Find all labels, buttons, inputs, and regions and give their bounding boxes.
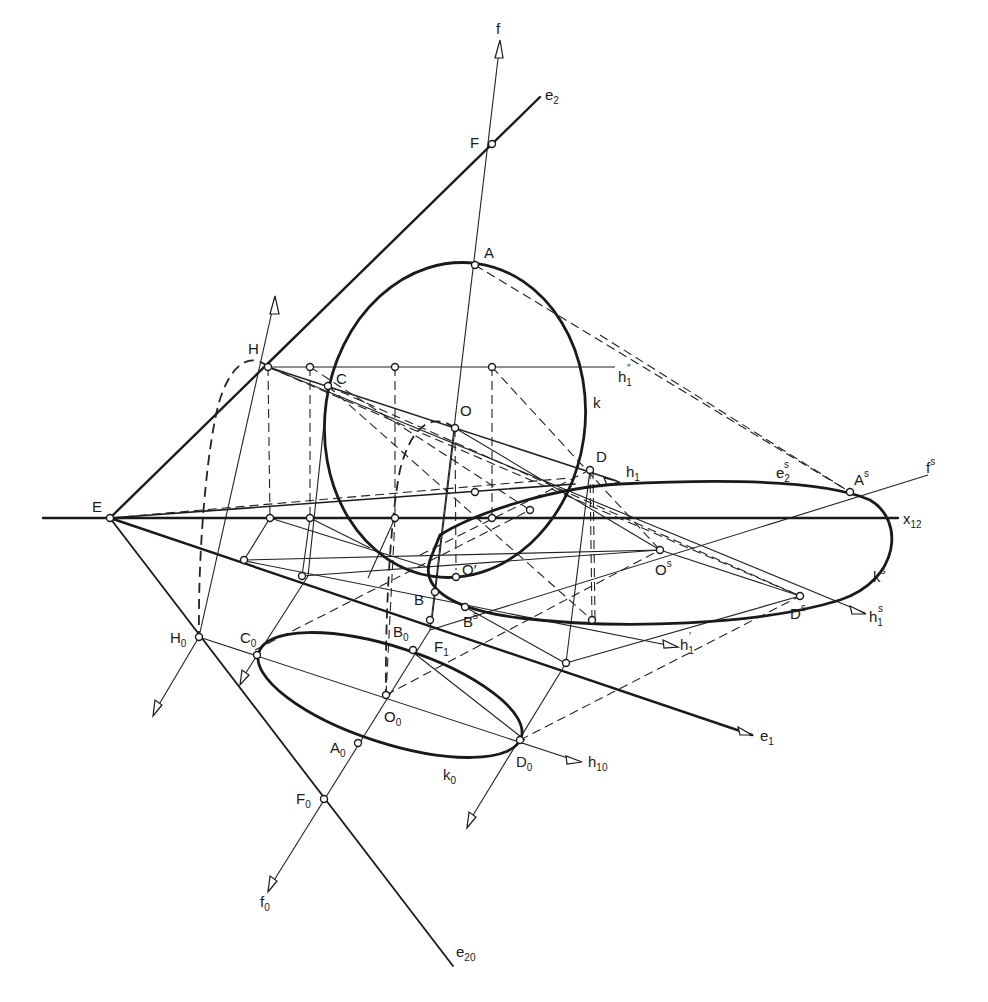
label-F1: F1 [434,638,449,658]
arrow-head-icon [270,296,279,314]
point-x3 [392,515,399,522]
label-k: k [593,394,601,411]
label-e2s: e2s [776,459,790,484]
point-b [432,589,439,596]
label-ks: ks [873,565,886,585]
labels: f e2 F A H C h1″ k O D h1 e2s As fs E x1… [92,20,935,963]
point-as [847,489,854,496]
label-e20: e20 [456,943,476,963]
line-f0 [268,630,430,892]
label-H0: H0 [170,629,187,649]
label-Ds: Ds [790,602,806,622]
arrow-head-icon [495,40,503,58]
label-h10: h10 [588,753,608,773]
label-D: D [596,448,607,465]
point-h0 [196,634,203,641]
point-f [489,141,496,148]
label-h1-double-prime: h1″ [618,363,632,388]
label-H: H [248,340,259,357]
label-F: F [470,134,479,151]
label-A0: A0 [330,739,346,759]
point-ks1 [527,507,534,514]
point-e1b [299,573,306,580]
label-h1: h1 [626,463,640,483]
point-h1a [307,364,314,371]
point-x2 [307,515,314,522]
point-d0 [517,737,524,744]
label-k0: k0 [443,766,457,786]
label-B0: B0 [393,623,409,643]
arrow-head-icon [467,812,476,828]
arrow-head-icon [663,640,678,648]
point-ds [797,593,804,600]
point-f1 [427,617,434,624]
label-h1s: h1s [869,603,883,628]
label-E: E [92,498,102,515]
point-e [107,515,114,522]
point-x4 [489,515,496,522]
point-c [325,383,332,390]
label-x12: x12 [903,510,922,530]
point-h [265,364,272,371]
label-Bs: Bs [463,610,478,630]
label-As: As [854,468,869,488]
label-Oprime: O′ [462,561,477,578]
line-through-d [467,470,590,828]
rotation-arcs [199,360,455,695]
label-Os: Os [655,558,672,578]
label-h1-prime: h1′ [680,631,694,656]
point-x1 [267,515,274,522]
construction-figure: f e2 F A H C h1″ k O D h1 e2s As fs E x1… [0,0,988,1002]
diagram-canvas: f e2 F A H C h1″ k O D h1 e2s As fs E x1… [0,0,988,1002]
point-e2s [472,489,479,496]
point-ds-aux [589,617,596,624]
point-os [657,547,664,554]
point-o [452,425,459,432]
point-h1c [489,364,496,371]
point-oprime [453,574,460,581]
point-f0 [321,796,328,803]
label-C: C [336,370,347,387]
label-fs: fs [926,456,935,476]
points [107,141,854,803]
point-a [472,262,479,269]
arrow-head-icon [738,727,752,735]
point-h1b [392,364,399,371]
arrow-head-icon [850,606,866,614]
line-e20 [110,518,453,966]
label-A: A [484,244,494,261]
label-D0: D0 [516,753,533,773]
point-o0 [383,692,390,699]
point-e1a [241,557,248,564]
point-bs [462,604,469,611]
label-F0: F0 [296,790,311,810]
label-O: O [460,402,472,419]
line-e2s [110,484,575,518]
label-f: f [496,20,501,37]
label-e1: e1 [760,727,774,747]
line-fs [430,475,928,630]
point-b0 [410,647,417,654]
label-O0: O0 [384,708,402,728]
label-B: B [414,591,424,608]
point-d [587,467,594,474]
label-f0: f0 [260,893,270,913]
arrow-head-icon [566,756,582,764]
point-a0 [355,740,362,747]
construction-lines [244,428,800,740]
point-e1c [563,660,570,667]
arrow-head-icon [240,670,249,685]
label-C0: C0 [240,629,257,649]
dashed-projections [110,265,850,740]
point-c0 [254,652,261,659]
label-e2: e2 [545,86,559,106]
line-h1 [268,367,620,485]
